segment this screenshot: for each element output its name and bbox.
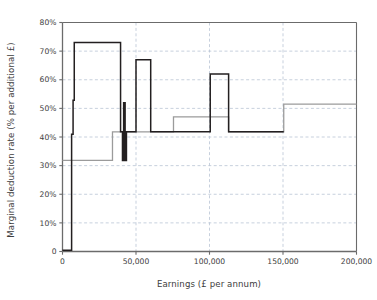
chart-figure: 010%20%30%40%50%60%70%80%050,000100,0001… (0, 0, 377, 300)
gridlines (63, 23, 357, 252)
x-tick-label: 150,000 (267, 257, 299, 266)
y-tick-label: 40% (40, 133, 57, 142)
x-tick-label: 50,000 (123, 257, 150, 266)
plot-figure: 010%20%30%40%50%60%70%80%050,000100,0001… (0, 0, 377, 300)
x-tick-label: 100,000 (194, 257, 226, 266)
x-axis-label: Earnings (£ per annum) (157, 279, 261, 289)
axis-ticks (59, 23, 356, 255)
y-tick-label: 10% (40, 219, 57, 228)
y-tick-label: 80% (40, 18, 57, 27)
series-line-black-step-series (63, 43, 284, 251)
y-tick-label: 60% (40, 75, 57, 84)
y-tick-label: 50% (40, 104, 57, 113)
y-tick-label: 30% (40, 161, 57, 170)
y-axis-label: Marginal deduction rate (% per additiona… (6, 42, 16, 237)
y-tick-label: 20% (40, 190, 57, 199)
chart-svg: 010%20%30%40%50%60%70%80%050,000100,0001… (0, 0, 377, 300)
x-tick-label: 0 (60, 257, 65, 266)
y-tick-label: 0 (52, 247, 57, 256)
y-tick-label: 70% (40, 47, 57, 56)
x-tick-label: 200,000 (341, 257, 373, 266)
axis-tick-labels: 010%20%30%40%50%60%70%80%050,000100,0001… (40, 18, 373, 266)
